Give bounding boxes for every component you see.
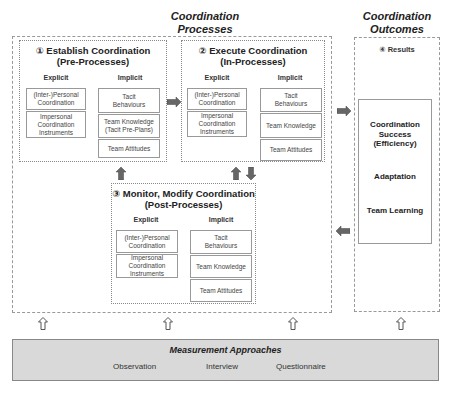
stage-2-implicit-team-attitudes: Team Attitudes <box>260 139 322 161</box>
stage-2-title: ② Execute Coordination <box>182 45 324 56</box>
stage-3-implicit-tacit: TacitBehaviours <box>190 230 252 254</box>
measurement-observation: Observation <box>113 362 156 371</box>
stage-establish-coordination: ① Establish Coordination (Pre-Processes)… <box>19 40 167 162</box>
stage-1-implicit-tacit: TacitBehaviours <box>98 88 160 113</box>
result-coordination-success: Coordination Success (Efficiency) <box>359 120 431 149</box>
arrow-left-icon <box>336 226 350 236</box>
stage-3-implicit-team-knowledge: Team Knowledge <box>190 255 252 278</box>
hollow-arrow-up-icon <box>38 317 48 330</box>
stage-1-subtitle: (Pre-Processes) <box>20 56 166 67</box>
measurement-interview: Interview <box>206 362 238 371</box>
heading-outcomes-line1: Coordination <box>352 10 442 23</box>
hollow-arrow-up-icon <box>163 317 173 330</box>
arrow-up-icon <box>116 167 126 180</box>
hollow-arrow-up-icon <box>396 317 406 330</box>
heading-coordination-outcomes: Coordination Outcomes <box>352 10 442 36</box>
results-box: Coordination Success (Efficiency) Adapta… <box>358 99 432 244</box>
stage-3-implicit-label: Implicit <box>190 216 252 223</box>
stage-1-title: ① Establish Coordination <box>20 45 166 56</box>
measurement-title: Measurement Approaches <box>13 345 438 355</box>
stage-3-title: ③ Monitor, Modify Coordination <box>112 188 255 199</box>
stage-2-implicit-team-knowledge: Team Knowledge <box>260 113 322 138</box>
results-title: ④ Results <box>355 45 439 54</box>
stage-3-explicit-personal: (Inter-)PersonalCoordination <box>116 230 178 253</box>
stage-3-implicit-team-attitudes: Team Attitudes <box>190 279 252 302</box>
stage-monitor-modify-coordination: ③ Monitor, Modify Coordination (Post-Pro… <box>111 183 256 304</box>
measurement-approaches-box: Measurement Approaches Observation Inter… <box>12 339 439 381</box>
stage-1-implicit-team-knowledge: Team Knowledge(Tacit Pre-Plans) <box>98 114 160 138</box>
stage-1-explicit-label: Explicit <box>26 74 86 81</box>
arrow-right-icon <box>167 97 181 107</box>
measurement-questionnaire: Questionnaire <box>276 362 326 371</box>
heading-processes-line1: Coordination <box>150 10 260 23</box>
arrow-right-icon <box>337 106 351 116</box>
stage-2-explicit-impersonal: ImpersonalCoordinationInstruments <box>187 111 247 137</box>
heading-outcomes-line2: Outcomes <box>352 23 442 36</box>
arrow-up-icon <box>231 167 241 180</box>
stage-1-explicit-personal: (Inter-)PersonalCoordination <box>26 88 86 110</box>
stage-2-implicit-label: Implicit <box>260 74 320 81</box>
stage-2-explicit-personal: (Inter-)PersonalCoordination <box>187 88 247 110</box>
heading-processes-line2: Processes <box>150 23 260 36</box>
stage-1-implicit-label: Implicit <box>100 74 160 81</box>
hollow-arrow-up-icon <box>288 317 298 330</box>
stage-2-implicit-tacit: TacitBehaviours <box>260 88 322 112</box>
stage-1-explicit-impersonal: ImpersonalCoordinationInstruments <box>26 111 86 138</box>
stage-1-implicit-team-attitudes: Team Attitudes <box>98 139 160 158</box>
stage-execute-coordination: ② Execute Coordination (In-Processes) Ex… <box>181 40 325 162</box>
result-team-learning: Team Learning <box>359 206 431 216</box>
stage-2-explicit-label: Explicit <box>187 74 247 81</box>
result-adaptation: Adaptation <box>359 172 431 182</box>
arrow-down-icon <box>246 167 256 180</box>
stage-3-explicit-impersonal: ImpersonalCoordinationInstruments <box>116 254 178 278</box>
stage-2-subtitle: (In-Processes) <box>182 56 324 67</box>
stage-3-subtitle: (Post-Processes) <box>112 199 255 210</box>
heading-coordination-processes: Coordination Processes <box>150 10 260 36</box>
stage-3-explicit-label: Explicit <box>117 216 175 223</box>
